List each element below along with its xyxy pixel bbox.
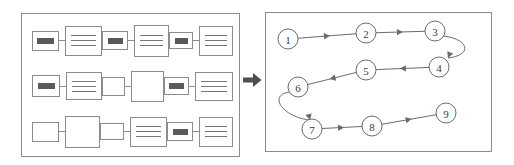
- document-content-box-empty: [131, 71, 164, 102]
- flow-node-4[interactable]: 4: [429, 57, 449, 77]
- content-line: [72, 86, 96, 87]
- process-flow-graph: 123456789: [266, 13, 491, 151]
- content-line: [71, 40, 96, 41]
- flow-node-2[interactable]: 2: [356, 23, 376, 43]
- flow-node-5[interactable]: 5: [356, 60, 376, 80]
- flow-node-label: 1: [285, 34, 291, 46]
- document-row: [32, 23, 231, 58]
- document-label-box-empty: [102, 77, 125, 96]
- content-line: [71, 35, 96, 36]
- label-bar: [38, 83, 55, 89]
- document-pair-empty[interactable]: [102, 71, 164, 102]
- document-row: [32, 114, 231, 149]
- document-content-box: [199, 26, 233, 56]
- content-line: [136, 126, 161, 127]
- content-line: [140, 45, 163, 46]
- content-line: [136, 131, 161, 132]
- document-content-box: [65, 26, 102, 56]
- content-line: [201, 81, 227, 82]
- label-bar: [37, 38, 54, 44]
- flow-node-6[interactable]: 6: [288, 77, 308, 97]
- figure-root: 123456789: [0, 0, 514, 165]
- document-label-box: [32, 75, 60, 97]
- flow-node-label: 8: [369, 121, 375, 133]
- content-line: [140, 35, 163, 36]
- document-pair[interactable]: [102, 25, 169, 57]
- content-line: [205, 136, 227, 137]
- label-bar: [173, 129, 188, 135]
- document-content-box-empty: [65, 116, 100, 148]
- label-bar: [169, 83, 184, 89]
- content-line: [205, 131, 227, 132]
- flow-node-8[interactable]: 8: [362, 116, 382, 136]
- document-pair[interactable]: [164, 72, 233, 101]
- document-pair[interactable]: [100, 117, 167, 147]
- document-label-box: [167, 122, 193, 141]
- content-line: [71, 45, 96, 46]
- content-line: [72, 81, 96, 82]
- flow-node-label: 7: [309, 124, 315, 136]
- content-line: [205, 35, 227, 36]
- flow-node-label: 2: [363, 28, 369, 40]
- content-line: [72, 91, 96, 92]
- flow-node-7[interactable]: 7: [302, 119, 322, 139]
- document-pair[interactable]: [32, 72, 102, 100]
- content-line: [205, 40, 227, 41]
- flow-node-label: 5: [363, 65, 369, 77]
- label-bar: [108, 38, 123, 44]
- right-arrow-icon: [243, 72, 262, 88]
- document-label-box: [164, 77, 189, 95]
- document-pair[interactable]: [169, 26, 233, 56]
- flow-nodes-layer: 123456789: [278, 21, 456, 139]
- label-bar: [175, 38, 188, 44]
- content-line: [205, 126, 227, 127]
- flow-node-label: 3: [432, 26, 438, 38]
- document-label-box: [32, 31, 59, 51]
- document-pair[interactable]: [32, 26, 102, 56]
- document-collection-panel: [21, 13, 240, 157]
- document-content-box: [66, 72, 102, 100]
- document-pair-empty[interactable]: [32, 116, 100, 148]
- document-label-box: [102, 31, 128, 50]
- process-flow-panel: 123456789: [265, 12, 492, 152]
- content-line: [136, 136, 161, 137]
- flow-node-3[interactable]: 3: [425, 21, 445, 41]
- document-label-box-empty: [32, 122, 59, 142]
- flow-node-9[interactable]: 9: [436, 103, 456, 123]
- flow-node-1[interactable]: 1: [278, 29, 298, 49]
- content-line: [201, 91, 227, 92]
- content-line: [201, 86, 227, 87]
- flow-node-label: 9: [443, 108, 449, 120]
- document-content-box: [199, 117, 233, 147]
- document-label-box: [169, 32, 193, 49]
- document-label-box-empty: [100, 123, 124, 140]
- content-line: [205, 45, 227, 46]
- flow-node-label: 4: [436, 62, 442, 74]
- document-content-box: [134, 25, 169, 57]
- document-content-box: [130, 117, 167, 147]
- flow-node-label: 6: [295, 82, 301, 94]
- document-pair[interactable]: [167, 117, 233, 147]
- document-grid: [32, 23, 231, 149]
- document-content-box: [195, 72, 233, 101]
- document-row: [32, 69, 231, 104]
- content-line: [140, 40, 163, 41]
